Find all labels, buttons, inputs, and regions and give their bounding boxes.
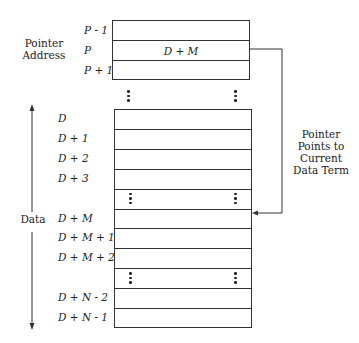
data-cell [115,149,251,169]
data-cell [115,308,251,328]
data-row-label: D + N - 2 [58,291,108,303]
annotation-line2: Points to [283,140,359,152]
pointer-cell [113,21,249,41]
ellipsis-cell [115,189,251,209]
pointer-cell [113,60,249,80]
ellipsis-icon [129,193,132,207]
gap-ellipsis-right [234,90,237,104]
data-row-label: D + M + 1 [58,231,115,243]
pointer-caption-line2: Address [14,49,74,61]
ellipsis-icon [234,272,237,286]
pointer-annotation: Pointer Points to Current Data Term [283,128,359,176]
annotation-line1: Pointer [283,128,359,140]
data-caption: Data [18,213,48,225]
data-row-label: D + 3 [58,172,89,184]
data-cell [115,129,251,149]
data-row-label: D + 2 [58,152,89,164]
pointer-address-caption: Pointer Address [14,37,74,61]
arrow-up-icon [30,104,35,111]
data-cell [115,169,251,189]
data-row-label: D + N - 1 [58,311,108,323]
arrow-down-icon [30,323,35,330]
annotation-line3: Current [283,152,359,164]
data-cell-current [115,209,251,229]
ellipsis-icon [129,272,132,286]
row-label-p: P [84,44,91,56]
data-row-label: D [58,112,66,124]
arrow-left-icon [252,211,258,216]
ellipsis-icon [234,193,237,207]
data-cell [115,110,251,130]
gap-ellipsis-left [127,90,130,104]
data-cell [115,248,251,268]
row-label-p-minus-1: P - 1 [84,24,108,36]
data-memory-box [114,109,252,328]
ellipsis-cell [115,268,251,288]
pointer-cell-value: D + M [113,41,249,61]
pointer-memory-box: D + M [112,20,250,80]
data-cell [115,288,251,308]
pointer-caption-line1: Pointer [14,37,74,49]
data-row-label: D + M + 2 [58,251,115,263]
row-label-p-plus-1: P + 1 [84,64,113,76]
annotation-line4: Data Term [283,164,359,176]
data-row-label: D + 1 [58,132,89,144]
data-cell [115,228,251,248]
pointer-cell-current: D + M [113,40,249,60]
data-row-label: D + M [58,212,93,224]
